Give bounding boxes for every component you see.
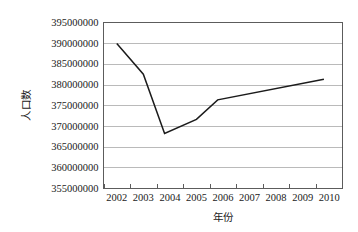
x-tick-label: 2005 bbox=[186, 192, 207, 203]
x-axis-title: 年份 bbox=[213, 211, 235, 223]
x-tick-label: 2002 bbox=[106, 192, 127, 203]
population-line-chart: 3950000003900000003850000003800000003750… bbox=[0, 0, 358, 232]
y-tick-label: 375000000 bbox=[51, 100, 98, 111]
x-tick-label: 2004 bbox=[159, 192, 181, 203]
y-tick-label: 390000000 bbox=[51, 38, 98, 49]
x-tick-label: 2010 bbox=[319, 192, 340, 203]
y-tick-label: 355000000 bbox=[51, 183, 98, 194]
x-tick-label: 2007 bbox=[239, 192, 260, 203]
y-axis-tick-labels: 3950000003900000003850000003800000003750… bbox=[51, 17, 98, 194]
y-tick-label: 395000000 bbox=[51, 17, 98, 28]
x-axis-tick-labels: 200220032004200520062007200820092010 bbox=[106, 192, 339, 203]
y-tick-label: 365000000 bbox=[51, 141, 98, 152]
y-tick-label: 360000000 bbox=[51, 162, 98, 173]
x-tick-label: 2003 bbox=[133, 192, 154, 203]
x-tick-label: 2008 bbox=[266, 192, 287, 203]
chart-canvas: 3950000003900000003850000003800000003750… bbox=[0, 0, 358, 232]
x-tick-label: 2006 bbox=[213, 192, 234, 203]
x-tick-label: 2009 bbox=[292, 192, 313, 203]
y-tick-label: 380000000 bbox=[51, 79, 98, 90]
y-axis-title: 人口数 bbox=[20, 89, 32, 121]
y-tick-label: 370000000 bbox=[51, 121, 98, 132]
y-tick-label: 385000000 bbox=[51, 58, 98, 69]
